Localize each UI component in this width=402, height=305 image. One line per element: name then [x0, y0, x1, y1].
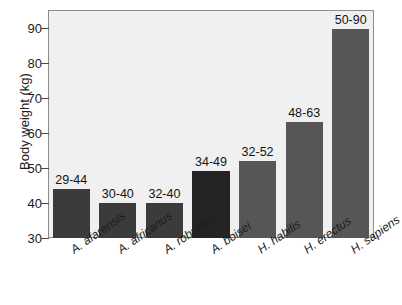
- bar-h-sapiens: 50-90: [332, 29, 369, 238]
- bar-value-label: 34-49: [195, 155, 227, 169]
- bar-value-label: 50-90: [335, 13, 367, 27]
- y-tick-mark-60: [41, 133, 49, 134]
- y-tick-mark-80: [41, 63, 49, 64]
- y-tick-mark-30: [41, 238, 49, 239]
- bar-value-label: 30-40: [102, 187, 134, 201]
- y-tick-mark-50: [41, 168, 49, 169]
- y-tick-mark-90: [41, 28, 49, 29]
- y-tick-mark-70: [41, 98, 49, 99]
- bar-value-label: 32-52: [242, 145, 274, 159]
- bar-value-label: 29-44: [55, 173, 87, 187]
- y-tick-mark-40: [41, 203, 49, 204]
- bar-value-label: 48-63: [288, 106, 320, 120]
- bar-value-label: 32-40: [148, 187, 180, 201]
- bar-a-afarensis: 29-44: [53, 189, 90, 238]
